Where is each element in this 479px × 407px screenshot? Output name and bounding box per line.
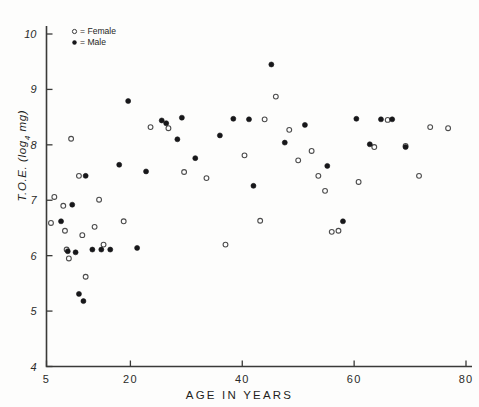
data-point-male (378, 117, 383, 122)
x-tick-label: 5 (43, 373, 50, 385)
data-point-female (66, 256, 71, 261)
data-point-male (340, 219, 345, 224)
data-point-female (329, 229, 334, 234)
data-point-female (417, 173, 422, 178)
data-point-male (282, 140, 287, 145)
data-point-female (204, 176, 209, 181)
data-point-female (316, 173, 321, 178)
data-point-male (65, 249, 70, 254)
data-point-female (49, 221, 54, 226)
data-point-male (59, 219, 64, 224)
legend-label-male: = Male (80, 37, 106, 48)
tick-marks (47, 34, 467, 367)
data-point-female (356, 180, 361, 185)
data-point-male (179, 115, 184, 120)
data-point-female (77, 173, 82, 178)
data-point-male (231, 116, 236, 121)
data-point-male (135, 245, 140, 250)
filled-circle-icon (70, 38, 80, 47)
data-point-male (76, 291, 81, 296)
data-point-male (117, 162, 122, 167)
axes (47, 26, 473, 367)
x-tick-label: 60 (347, 373, 362, 385)
data-point-male (251, 183, 256, 188)
data-point-female (121, 219, 126, 224)
y-tick-label: 4 (30, 361, 36, 373)
legend: = Female = Male (70, 26, 116, 48)
data-point-female (262, 117, 267, 122)
scatter-plot-figure: 45678910520406080 = Female = Male AGE IN… (0, 0, 479, 407)
data-point-female (273, 94, 278, 99)
x-axis-label: AGE IN YEARS (0, 389, 479, 401)
data-point-female (385, 118, 390, 123)
data-point-female (223, 242, 228, 247)
data-point-female (446, 126, 451, 131)
tick-labels: 45678910520406080 (24, 28, 473, 385)
data-point-male (403, 145, 408, 150)
data-point-male (246, 117, 251, 122)
data-point-male (83, 173, 88, 178)
data-point-female (296, 158, 301, 163)
y-tick-label: 5 (30, 305, 37, 317)
open-circle-icon (70, 27, 80, 36)
data-points (49, 62, 451, 304)
plot-canvas: 45678910520406080 (0, 0, 479, 407)
data-point-male (99, 247, 104, 252)
x-tick-label: 20 (123, 373, 138, 385)
data-point-female (148, 125, 153, 130)
data-point-female (80, 233, 85, 238)
y-axis-label: T.O.E. (log4 mg) (16, 76, 31, 236)
data-point-male (193, 156, 198, 161)
y-tick-label: 10 (24, 28, 37, 40)
data-point-female (242, 153, 247, 158)
legend-item-male: = Male (70, 37, 116, 48)
data-point-male (390, 117, 395, 122)
data-point-male (73, 250, 78, 255)
data-point-male (175, 137, 180, 142)
x-tick-label: 80 (459, 373, 474, 385)
data-point-male (164, 121, 169, 126)
data-point-male (81, 299, 86, 304)
data-point-male (108, 247, 113, 252)
data-point-female (336, 228, 341, 233)
data-point-female (61, 203, 66, 208)
data-point-female (182, 170, 187, 175)
data-point-female (309, 149, 314, 154)
data-point-male (70, 202, 75, 207)
data-point-female (69, 136, 74, 141)
y-axis-label-base: T.O.E. (log (16, 140, 28, 201)
y-axis-label-subscript: 4 (23, 135, 32, 140)
data-point-male (354, 116, 359, 121)
legend-label-female: = Female (80, 26, 116, 37)
data-point-female (428, 125, 433, 130)
data-point-male (269, 62, 274, 67)
data-point-female (166, 126, 171, 131)
data-point-male (159, 118, 164, 123)
data-point-female (372, 145, 377, 150)
data-point-female (258, 218, 263, 223)
data-point-male (302, 122, 307, 127)
data-point-male (144, 169, 149, 174)
y-tick-label: 6 (30, 250, 37, 262)
y-axis-label-tail: mg) (16, 110, 28, 135)
data-point-female (287, 127, 292, 132)
data-point-female (63, 228, 68, 233)
data-point-female (101, 242, 106, 247)
data-point-female (97, 197, 102, 202)
data-point-male (217, 133, 222, 138)
data-point-female (83, 274, 88, 279)
data-point-male (90, 247, 95, 252)
x-tick-label: 40 (235, 373, 250, 385)
data-point-female (52, 195, 57, 200)
data-point-male (126, 99, 131, 104)
data-point-female (92, 224, 97, 229)
data-point-female (323, 188, 328, 193)
legend-item-female: = Female (70, 26, 116, 37)
data-point-male (367, 142, 372, 147)
data-point-male (325, 163, 330, 168)
